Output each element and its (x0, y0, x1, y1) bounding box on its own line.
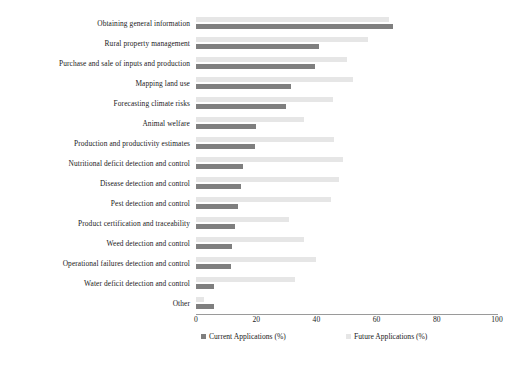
bar-group (196, 174, 497, 194)
category-label: Production and productivity estimates (74, 140, 190, 147)
bar-future-applications (196, 157, 343, 162)
chart-row: Obtaining general information (0, 14, 522, 34)
x-axis-tick-labels: 020406080100 (196, 316, 498, 330)
bar-current-applications (196, 84, 291, 89)
x-tick-label: 0 (194, 316, 198, 324)
bar-group (196, 154, 497, 174)
category-label: Disease detection and control (100, 180, 190, 187)
bar-future-applications (196, 217, 289, 222)
bar-current-applications (196, 184, 241, 189)
category-label: Other (173, 300, 190, 307)
chart-row: Purchase and sale of inputs and producti… (0, 54, 522, 74)
chart-row: Disease detection and control (0, 174, 522, 194)
bar-current-applications (196, 24, 393, 29)
bar-future-applications (196, 137, 334, 142)
x-tick-label: 60 (373, 316, 381, 324)
chart-row: Production and productivity estimates (0, 134, 522, 154)
chart-row: Product certification and traceability (0, 214, 522, 234)
bar-current-applications (196, 124, 256, 129)
bar-future-applications (196, 257, 316, 262)
x-tick-label: 80 (433, 316, 441, 324)
category-label: Product certification and traceability (78, 220, 190, 227)
chart-row: Rural property management (0, 34, 522, 54)
bar-future-applications (196, 117, 304, 122)
chart-row: Forecasting climate risks (0, 94, 522, 114)
bar-future-applications (196, 57, 347, 62)
category-label: Purchase and sale of inputs and producti… (59, 60, 190, 67)
bar-group (196, 254, 497, 274)
category-label: Mapping land use (135, 80, 190, 87)
bar-future-applications (196, 277, 295, 282)
chart-row: Other (0, 294, 522, 314)
category-label: Nutritional deficit detection and contro… (69, 160, 191, 167)
legend-swatch-future (346, 334, 351, 339)
legend-label-current: Current Applications (%) (209, 333, 286, 341)
plot-area: Obtaining general informationRural prope… (0, 14, 522, 314)
bar-current-applications (196, 144, 255, 149)
legend-item-future-applications: Future Applications (%) (346, 333, 427, 341)
bar-group (196, 194, 497, 214)
bar-future-applications (196, 77, 353, 82)
chart-legend: Current Applications (%) Future Applicat… (196, 333, 498, 347)
bar-group (196, 274, 497, 294)
legend-label-future: Future Applications (%) (354, 333, 427, 341)
category-label: Water deficit detection and control (84, 280, 190, 287)
bar-future-applications (196, 297, 204, 302)
category-label: Obtaining general information (97, 20, 190, 27)
category-label: Forecasting climate risks (114, 100, 190, 107)
bar-group (196, 14, 497, 34)
chart-row: Weed detection and control (0, 234, 522, 254)
bar-group (196, 294, 497, 314)
x-tick-label: 100 (491, 316, 502, 324)
bar-current-applications (196, 284, 214, 289)
chart-row: Animal welfare (0, 114, 522, 134)
bar-current-applications (196, 104, 286, 109)
legend-item-current-applications: Current Applications (%) (201, 333, 286, 341)
category-label: Pest detection and control (111, 200, 190, 207)
chart-row: Pest detection and control (0, 194, 522, 214)
category-label: Weed detection and control (107, 240, 190, 247)
bar-group (196, 34, 497, 54)
chart-row: Water deficit detection and control (0, 274, 522, 294)
bar-group (196, 54, 497, 74)
bar-future-applications (196, 237, 304, 242)
bar-group (196, 234, 497, 254)
bar-future-applications (196, 197, 331, 202)
bar-future-applications (196, 97, 333, 102)
bar-chart: Obtaining general informationRural prope… (0, 0, 522, 372)
bar-current-applications (196, 304, 214, 309)
bar-current-applications (196, 244, 232, 249)
chart-row: Operational failures detection and contr… (0, 254, 522, 274)
bar-group (196, 214, 497, 234)
category-label: Rural property management (105, 40, 190, 47)
x-tick-label: 20 (252, 316, 260, 324)
bar-group (196, 134, 497, 154)
bar-group (196, 94, 497, 114)
chart-row: Nutritional deficit detection and contro… (0, 154, 522, 174)
x-tick-label: 40 (313, 316, 321, 324)
category-label: Animal welfare (142, 120, 190, 127)
x-axis-line (196, 314, 498, 315)
bar-future-applications (196, 37, 368, 42)
bar-group (196, 74, 497, 94)
bar-current-applications (196, 164, 243, 169)
category-label: Operational failures detection and contr… (63, 260, 190, 267)
chart-row: Mapping land use (0, 74, 522, 94)
legend-swatch-current (201, 334, 206, 339)
bar-current-applications (196, 264, 231, 269)
bar-current-applications (196, 64, 315, 69)
bar-group (196, 114, 497, 134)
bar-future-applications (196, 17, 389, 22)
bar-current-applications (196, 224, 235, 229)
bar-future-applications (196, 177, 339, 182)
bar-current-applications (196, 44, 319, 49)
bar-current-applications (196, 204, 238, 209)
